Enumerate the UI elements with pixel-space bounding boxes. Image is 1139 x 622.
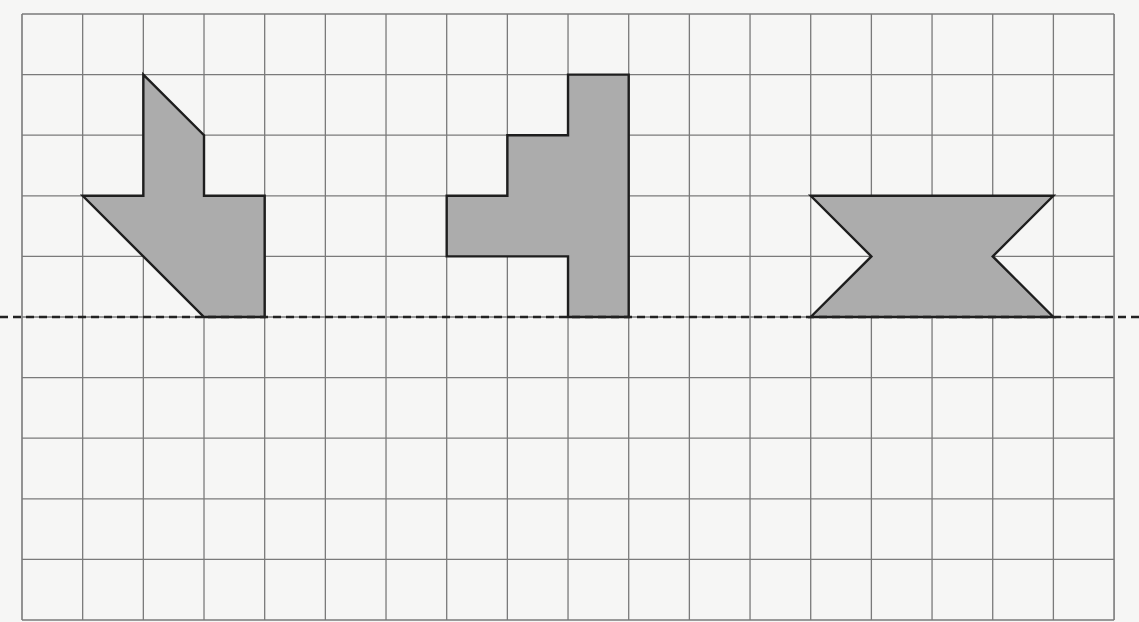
left-shape: [83, 75, 265, 317]
worksheet-canvas: [0, 0, 1139, 622]
grid-diagram: [0, 0, 1139, 622]
middle-shape: [447, 75, 629, 317]
shapes-layer: [83, 75, 1054, 317]
